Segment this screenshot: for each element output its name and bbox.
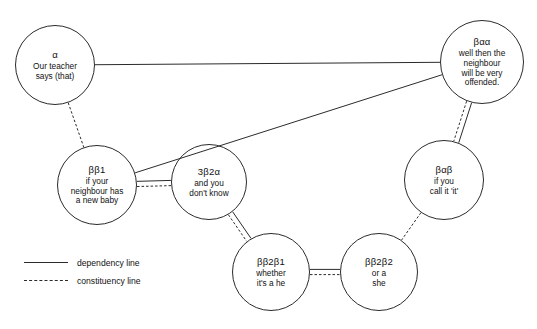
node-beta-alpha-alpha[interactable]: βααwell then theneighbourwill be veryoff… bbox=[440, 20, 524, 104]
node-beta-beta-2-beta-2[interactable]: ββ2β2or ashe bbox=[340, 233, 418, 311]
node-text: and youdon't know bbox=[184, 179, 233, 198]
dependency-edge-alpha-to-beta-alpha-alpha bbox=[95, 62, 440, 64]
node-text: well then theneighbourwill be veryoffend… bbox=[454, 49, 511, 87]
legend-label-dependency: dependency line bbox=[77, 258, 140, 268]
diagram-canvas: αOur teachersays (that)βααwell then then… bbox=[0, 0, 537, 329]
node-text-line: she bbox=[372, 279, 386, 289]
constituency-edge-alpha-to-beta-beta-1 bbox=[68, 103, 84, 148]
node-label: ββ2β1 bbox=[257, 256, 285, 267]
node-beta-alpha-beta[interactable]: βαβif youcall it 'it' bbox=[404, 140, 484, 220]
node-text-line: call it 'it' bbox=[430, 187, 459, 197]
dependency-edge-beta-beta-1-to-three-beta-2-alpha bbox=[137, 180, 171, 181]
node-text-line: offended. bbox=[459, 78, 506, 88]
node-alpha[interactable]: αOur teachersays (that) bbox=[15, 25, 95, 105]
legend-item-dependency: dependency line bbox=[24, 254, 204, 272]
dependency-edge-beta-alpha-alpha-to-beta-alpha-beta bbox=[459, 103, 472, 143]
dependency-line-swatch bbox=[24, 262, 68, 264]
node-label: α bbox=[52, 49, 58, 60]
node-label: 3β2α bbox=[198, 166, 220, 177]
node-beta-beta-1[interactable]: ββ1if yourneighbour hasa new baby bbox=[57, 145, 137, 225]
node-label: ββ1 bbox=[89, 164, 106, 175]
node-label: ββ2β2 bbox=[365, 256, 393, 267]
constituency-edge-three-beta-2-alpha-to-beta-beta-2-beta-1 bbox=[228, 215, 246, 242]
node-text: if yourneighbour hasa new baby bbox=[66, 177, 129, 206]
node-text-line: don't know bbox=[189, 189, 228, 199]
node-label: βαα bbox=[473, 36, 490, 47]
dependency-edge-three-beta-2-alpha-to-beta-beta-2-beta-1 bbox=[233, 212, 251, 239]
node-text: if youcall it 'it' bbox=[425, 177, 464, 196]
node-text: whetherit's a he bbox=[251, 269, 291, 288]
constituency-edge-beta-beta-1-to-three-beta-2-alpha bbox=[137, 186, 171, 187]
node-text: Our teachersays (that) bbox=[28, 62, 82, 81]
node-text: or ashe bbox=[367, 269, 391, 288]
constituency-edge-beta-alpha-alpha-to-beta-alpha-beta bbox=[454, 101, 467, 141]
node-text-line: it's a he bbox=[256, 279, 286, 289]
legend: dependency line constituency line bbox=[24, 254, 204, 290]
constituency-line-swatch bbox=[24, 280, 68, 282]
node-three-beta-2-alpha[interactable]: 3β2αand youdon't know bbox=[171, 144, 247, 220]
node-label: βαβ bbox=[435, 164, 452, 175]
constituency-edge-beta-alpha-beta-to-beta-beta-2-beta-2 bbox=[402, 213, 421, 240]
legend-label-constituency: constituency line bbox=[77, 276, 141, 286]
node-text-line: a new baby bbox=[71, 196, 124, 206]
legend-item-constituency: constituency line bbox=[24, 272, 204, 290]
node-beta-beta-2-beta-1[interactable]: ββ2β1whetherit's a he bbox=[232, 233, 310, 311]
node-text-line: says (that) bbox=[33, 72, 77, 82]
